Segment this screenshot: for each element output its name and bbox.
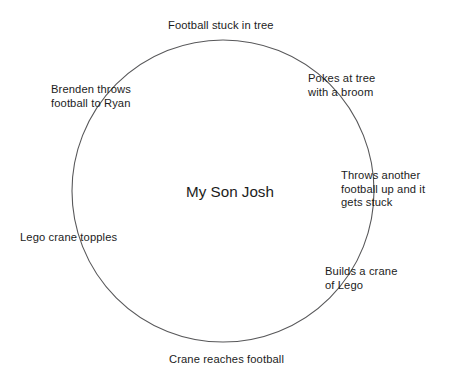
cycle-node-lego-crane-topples[interactable]: Lego crane topples <box>20 231 117 245</box>
cycle-node-football-stuck-in-tree[interactable]: Football stuck in tree <box>168 19 274 33</box>
cycle-node-pokes-at-tree[interactable]: Pokes at tree with a broom <box>308 72 375 99</box>
cycle-node-builds-a-crane[interactable]: Builds a crane of Lego <box>325 265 397 292</box>
cycle-node-brenden-throws-football[interactable]: Brenden throws football to Ryan <box>51 83 131 110</box>
cycle-node-crane-reaches-football[interactable]: Crane reaches football <box>169 353 284 367</box>
diagram-canvas: Football stuck in tree Pokes at tree wit… <box>0 0 475 384</box>
cycle-center-label: My Son Josh <box>153 183 307 201</box>
cycle-node-throws-another-football[interactable]: Throws another football up and it gets s… <box>341 169 425 210</box>
